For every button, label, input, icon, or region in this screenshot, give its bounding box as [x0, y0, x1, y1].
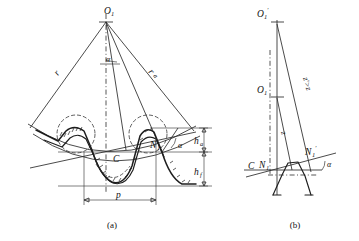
- label-pitch-point-C: C: [113, 154, 120, 164]
- label-apex-O1-prime: O: [257, 9, 264, 19]
- label-contact-point-N1-prime-sub: 1: [312, 151, 315, 158]
- diagram-canvas: O 1 r r a α C N 1 α h a h f p (a): [0, 0, 359, 241]
- tooth-profile-b: [273, 162, 311, 195]
- label-pitch-point-C-b: C: [248, 161, 255, 171]
- label-addendum-ha: h: [194, 136, 199, 146]
- caption-panel-b: (b): [290, 220, 301, 230]
- label-contact-point-N1-b-sub: 1: [266, 164, 269, 171]
- radius-line-right: [106, 22, 194, 131]
- label-half-angle-alpha: α: [106, 55, 111, 64]
- label-radius-left: r: [52, 68, 62, 77]
- pressure-angle-arc-b: [322, 161, 325, 170]
- label-contact-point-N1-sub: 1: [157, 144, 160, 151]
- label-apex-O1-lower-sub: 1: [264, 89, 267, 96]
- label-contact-point-N1: N: [149, 140, 157, 150]
- label-pitch-p: p: [115, 190, 121, 200]
- label-contact-point-N1-b: N: [258, 160, 266, 170]
- label-addendum-ha-sub: a: [200, 140, 203, 147]
- cutter-circle-right: [129, 115, 167, 153]
- ray-inner-right: [106, 22, 126, 150]
- panel-b-labels: O 1 ′ O 1 z′>z z C N 1 N 1 ′ α (b): [248, 6, 332, 230]
- pressure-angle-arc-a: [171, 138, 176, 148]
- label-dedendum-hf-sub: f: [200, 171, 203, 178]
- apex-ray-lines: [30, 22, 194, 152]
- label-apex-O1: O: [104, 6, 111, 16]
- panel-b: O 1 ′ O 1 z′>z z C N 1 N 1 ′ α (b): [244, 6, 336, 230]
- apex-markers-b: [271, 22, 284, 97]
- label-radius-right-sub: a: [152, 72, 159, 79]
- label-apex-O1-sub: 1: [111, 10, 114, 17]
- label-tooth-count-z: z: [279, 130, 289, 137]
- panel-a: O 1 r r a α C N 1 α h a h f p (a): [28, 6, 212, 230]
- label-contact-point-N1-prime: N: [304, 147, 312, 157]
- caption-panel-a: (a): [107, 220, 117, 230]
- panel-a-labels: O 1 r r a α C N 1 α h a h f p (a): [52, 6, 204, 230]
- label-apex-O1-prime-mark: ′: [267, 6, 269, 13]
- label-tooth-count-compare: z′>z: [301, 75, 314, 92]
- label-apex-O1-prime-sub: 1: [264, 13, 267, 20]
- label-dedendum-hf: h: [194, 167, 199, 177]
- label-pressure-angle-alpha-b: α: [327, 160, 332, 169]
- radius-line-left: [30, 22, 106, 128]
- label-contact-point-N1-prime-mark: ′: [315, 144, 317, 151]
- label-apex-O1-lower: O: [257, 85, 264, 95]
- technical-diagram-figure: O 1 r r a α C N 1 α h a h f p (a): [0, 0, 359, 241]
